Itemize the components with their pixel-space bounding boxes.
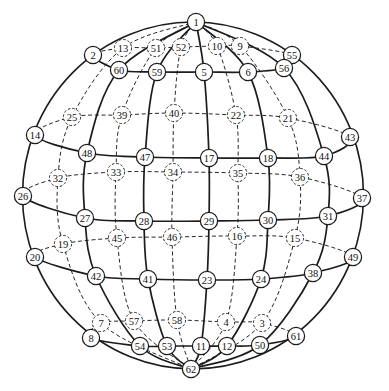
node-6: 6: [239, 63, 256, 80]
node-1: 1: [187, 13, 204, 30]
node-33: 33: [107, 163, 124, 180]
node-33-label: 33: [111, 167, 122, 178]
node-31: 31: [319, 207, 336, 224]
node-23: 23: [198, 271, 215, 288]
node-19: 19: [54, 235, 71, 252]
node-28: 28: [135, 212, 152, 229]
node-37: 37: [353, 189, 370, 206]
node-39-label: 39: [117, 110, 128, 121]
node-16: 16: [228, 227, 245, 244]
node-45: 45: [108, 229, 125, 246]
node-24-label: 24: [256, 274, 267, 285]
node-18: 18: [259, 149, 276, 166]
node-15-label: 15: [290, 233, 301, 244]
node-26-label: 26: [18, 191, 29, 202]
node-48-label: 48: [82, 148, 93, 159]
node-50: 50: [251, 336, 268, 353]
node-19-label: 19: [58, 239, 69, 250]
node-4: 4: [217, 313, 234, 330]
node-59: 59: [148, 63, 165, 80]
node-46-label: 46: [167, 232, 178, 243]
node-50-label: 50: [255, 340, 266, 351]
node-54: 54: [131, 337, 148, 354]
node-47-label: 47: [140, 152, 151, 163]
node-46: 46: [163, 228, 180, 245]
node-6-label: 6: [245, 67, 250, 78]
node-39: 39: [113, 106, 130, 123]
node-62: 62: [182, 360, 199, 377]
node-60-label: 60: [114, 65, 125, 76]
node-27: 27: [76, 209, 93, 226]
node-29: 29: [200, 212, 217, 229]
latitude-ring-3-back-arc: [22, 172, 362, 198]
node-22: 22: [227, 106, 244, 123]
node-41-label: 41: [143, 274, 154, 285]
node-48: 48: [78, 144, 95, 161]
node-52-label: 52: [176, 42, 187, 53]
node-36: 36: [291, 168, 308, 185]
node-58-label: 58: [172, 315, 183, 326]
node-38: 38: [304, 264, 321, 281]
node-7: 7: [92, 314, 109, 331]
sphere-graph-figure: 1234567891011121314151617181920212223242…: [0, 0, 389, 391]
hidden-edges-layer: [22, 22, 362, 369]
node-25: 25: [63, 108, 80, 125]
node-23-label: 23: [202, 275, 213, 286]
node-7-label: 7: [98, 318, 103, 329]
node-51-label: 51: [151, 43, 162, 54]
node-8: 8: [82, 329, 99, 346]
node-43: 43: [341, 128, 358, 145]
node-43-label: 43: [345, 132, 356, 143]
node-34: 34: [164, 163, 181, 180]
node-16-label: 16: [232, 231, 243, 242]
node-18-label: 18: [263, 153, 274, 164]
node-31-label: 31: [323, 211, 334, 222]
node-56-label: 56: [279, 63, 290, 74]
node-52: 52: [172, 38, 189, 55]
node-32-label: 32: [53, 173, 64, 184]
latitude-ring-4-back-arc: [34, 236, 353, 257]
node-53-label: 53: [162, 341, 173, 352]
node-5: 5: [195, 63, 212, 80]
node-60: 60: [110, 61, 127, 78]
node-61-label: 61: [291, 331, 302, 342]
node-28-label: 28: [139, 216, 150, 227]
node-57: 57: [125, 312, 142, 329]
node-12-label: 12: [222, 341, 233, 352]
sphere-outline: [23, 22, 364, 369]
node-10-label: 10: [212, 41, 223, 52]
node-14: 14: [26, 126, 43, 143]
node-11-label: 11: [196, 341, 206, 352]
node-42: 42: [87, 267, 104, 284]
node-3-label: 3: [259, 318, 264, 329]
node-59-label: 59: [152, 67, 163, 78]
node-40: 40: [165, 104, 182, 121]
node-17-label: 17: [204, 153, 215, 164]
node-13: 13: [114, 39, 131, 56]
node-62-label: 62: [186, 364, 197, 375]
node-29-label: 29: [204, 216, 215, 227]
node-30: 30: [259, 211, 276, 228]
node-8-label: 8: [88, 333, 93, 344]
node-47: 47: [136, 148, 153, 165]
node-12: 12: [218, 337, 235, 354]
node-21: 21: [279, 109, 296, 126]
node-14-label: 14: [30, 130, 41, 141]
figure-page: 1234567891011121314151617181920212223242…: [0, 0, 389, 391]
node-5-label: 5: [201, 67, 206, 78]
node-37-label: 37: [357, 193, 368, 204]
node-54-label: 54: [135, 341, 146, 352]
node-13-label: 13: [118, 43, 129, 54]
node-9-label: 9: [237, 41, 242, 52]
node-35: 35: [229, 164, 246, 181]
node-53: 53: [158, 337, 175, 354]
node-9: 9: [231, 37, 248, 54]
node-55-label: 55: [287, 50, 298, 61]
node-17: 17: [200, 149, 217, 166]
node-35-label: 35: [233, 168, 244, 179]
visible-edges-layer: [23, 22, 363, 369]
node-38-label: 38: [308, 268, 319, 279]
node-57-label: 57: [129, 316, 140, 327]
nodes-layer: 1234567891011121314151617181920212223242…: [14, 13, 370, 377]
node-40-label: 40: [169, 108, 180, 119]
